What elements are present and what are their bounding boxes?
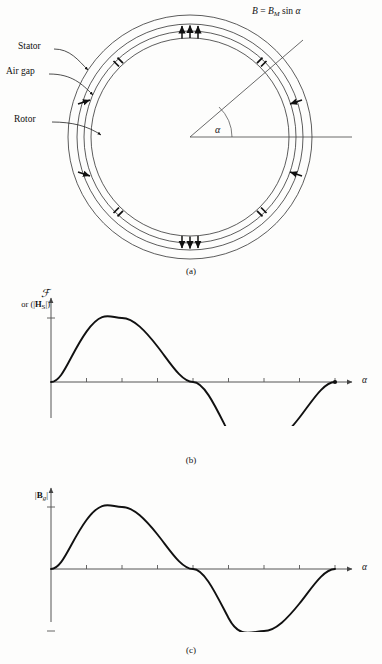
panel-b-y-axis-label: ℱ or (|HS|) bbox=[2, 288, 50, 313]
panel-c-svg bbox=[0, 482, 382, 632]
label-stator: Stator bbox=[18, 41, 41, 51]
label-rotor: Rotor bbox=[14, 114, 36, 124]
gap-arrow-right-upper bbox=[290, 100, 302, 104]
equation-flux-density: B = BM sin α bbox=[252, 6, 300, 18]
angle-arc bbox=[219, 107, 232, 137]
panel-c-ylabel-post: | bbox=[46, 490, 48, 500]
caption-a: (a) bbox=[171, 266, 211, 276]
equation-lhs: B bbox=[252, 6, 258, 16]
leader-line-stator bbox=[54, 49, 88, 70]
angle-label-alpha: α bbox=[215, 124, 220, 135]
panel-c-x-ticks bbox=[87, 565, 336, 569]
panel-c-x-axis-alpha: α bbox=[362, 562, 367, 572]
panel-a-svg bbox=[0, 0, 382, 265]
panel-b-x-axis-alpha: α bbox=[362, 375, 367, 385]
bottom-flux-arrows bbox=[182, 236, 198, 249]
caption-b: (b) bbox=[171, 455, 211, 465]
panel-b-ylabel-h: or (|HS|) bbox=[2, 299, 50, 313]
panel-b-ylabel-mmf: ℱ bbox=[2, 288, 50, 299]
panel-b-ylabel-bold: H bbox=[35, 299, 42, 309]
label-air-gap: Air gap bbox=[6, 66, 35, 76]
panel-b-x-ticks bbox=[87, 378, 336, 382]
radius-line-alpha bbox=[190, 40, 303, 137]
panel-b-ylabel-pre: or (| bbox=[21, 299, 35, 309]
gap-arrow-left-upper bbox=[78, 100, 90, 104]
top-flux-arrows bbox=[182, 26, 198, 39]
leader-line-rotor bbox=[52, 122, 101, 135]
equation-alpha: α bbox=[295, 6, 300, 16]
equation-equals: = bbox=[260, 6, 265, 16]
equation-sin: sin bbox=[282, 6, 293, 16]
equation-rhs-subscript: M bbox=[274, 10, 280, 18]
panel-b-curve bbox=[51, 316, 335, 426]
caption-c: (c) bbox=[171, 645, 211, 655]
figure-machine-cross-section: B = BM sin α Stator Air gap Rotor α (a) … bbox=[0, 0, 382, 664]
panel-b-svg bbox=[0, 286, 382, 426]
panel-b-ylabel-post: |) bbox=[45, 299, 50, 309]
panel-c-y-axis-label: |Bg| bbox=[2, 490, 48, 504]
